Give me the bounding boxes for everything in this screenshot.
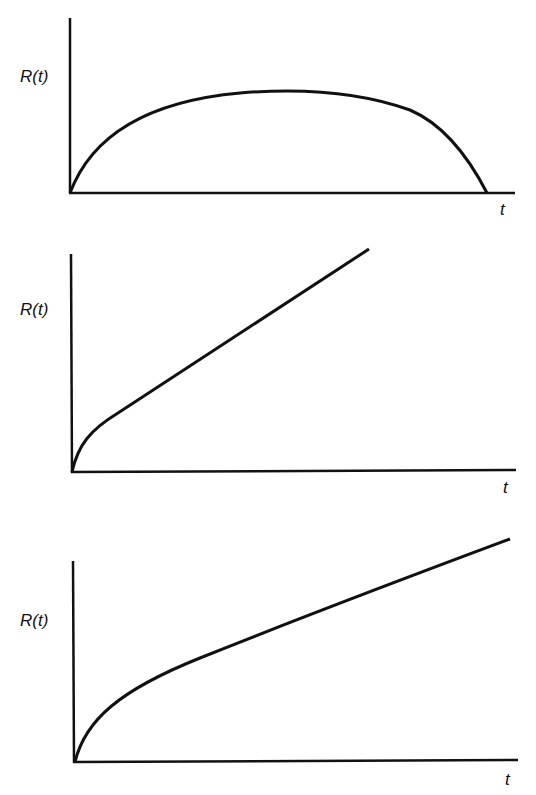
y-axis xyxy=(73,561,74,763)
curve xyxy=(75,539,510,762)
figure: R(t) t R(t) t R(t) t xyxy=(0,0,536,795)
y-axis-label: R(t) xyxy=(20,300,48,319)
x-axis-label: t xyxy=(503,478,509,497)
x-axis xyxy=(73,760,518,762)
x-axis xyxy=(71,470,516,472)
x-axis-label: t xyxy=(505,770,511,789)
curve xyxy=(72,249,369,472)
y-axis-label: R(t) xyxy=(20,611,48,630)
y-axis-label: R(t) xyxy=(20,67,48,86)
y-axis xyxy=(71,254,72,473)
plot-concave: R(t) t xyxy=(20,539,518,789)
curve xyxy=(70,91,487,193)
x-axis-label: t xyxy=(500,200,506,219)
plot-arch: R(t) t xyxy=(20,18,515,219)
plot-linear: R(t) t xyxy=(20,249,516,497)
